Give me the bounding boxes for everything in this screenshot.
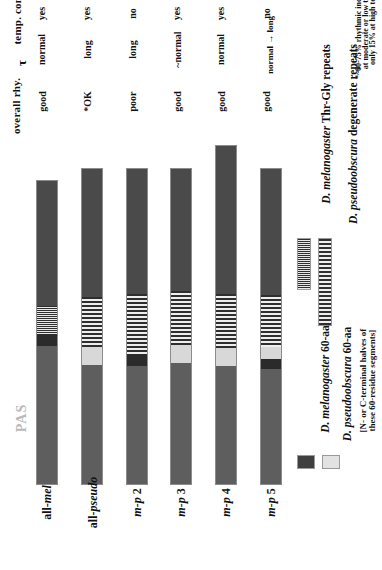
cell-tau-5-value: normal → long	[265, 16, 275, 74]
legend-swatch-pseudo-60aa	[322, 455, 340, 469]
cell-overall-rhy-4: good	[201, 96, 241, 107]
segment-mp4-60aa	[216, 348, 236, 366]
bar-label-m-p-5-suffix: 5	[264, 488, 278, 497]
segment-mel-nterm	[37, 181, 57, 306]
bar-label-m-p-4-italic: m-p	[219, 497, 233, 516]
segment-mp3-degenerate-repeats	[171, 291, 191, 345]
cell-temp-comp-0-value: yes	[37, 7, 48, 20]
bar-label-m-p-3-suffix: 3	[174, 488, 188, 497]
legend-label-degenerate-repeats: D. pseudoobscura degenerate repeats	[263, 128, 382, 140]
segment-mp2-degenerate-repeats	[127, 294, 147, 354]
segment-mp2-cterm	[127, 366, 147, 485]
bar-label-all-mel-italic: mel	[39, 485, 53, 503]
cell-tau-3-value: ~normal	[172, 31, 183, 67]
segment-mp5-nterm	[261, 169, 281, 295]
legend-footnote-text-3: only 15% at high temp.	[368, 0, 378, 65]
bar-label-m-p-2-suffix: 2	[130, 488, 144, 497]
legend-text-thr-gly: Thr-Gly repeats	[320, 44, 332, 126]
row-header-tau: τ	[7, 55, 37, 71]
segment-pseudo-nterm	[82, 169, 102, 297]
cell-temp-comp-3: yes	[162, 8, 192, 19]
legend-swatch-degenerate-repeats	[318, 238, 332, 326]
cell-tau-2-value: long	[127, 40, 138, 58]
segment-mp4-degenerate-repeats	[216, 294, 236, 348]
cell-temp-comp-1: yes	[72, 8, 102, 19]
segment-mp4-nterm	[216, 146, 236, 294]
legend-swatch-thr-gly-repeats	[297, 238, 311, 290]
cell-tau-3: ~normal	[152, 44, 202, 55]
segment-mp3-60aa	[171, 345, 191, 363]
segment-mp4-cterm	[216, 366, 236, 485]
bar-label-m-p-5: m-p 5	[245, 495, 297, 510]
legend-species-pseudoobscura-deg: D. pseudoobscura	[347, 139, 359, 224]
bar-label-m-p-4-suffix: 4	[219, 488, 233, 497]
cell-temp-comp-4-value: yes	[216, 7, 227, 20]
protein-bar-m-p-2[interactable]	[126, 168, 148, 485]
row-header-temp-comp-label: temp. comp	[10, 0, 22, 45]
protein-bar-m-p-4[interactable]	[215, 145, 237, 485]
cell-temp-comp-2: no	[117, 8, 147, 19]
legend-species-pseudoobscura-60aa: D. pseudoobscura	[341, 356, 353, 441]
cell-tau-4-value: normal	[215, 34, 226, 65]
cell-overall-rhy-1-value: *OK	[82, 91, 93, 112]
legend-species-melanogaster-60aa: D. melanogaster	[319, 355, 331, 433]
cell-tau-1: long	[62, 44, 112, 55]
legend-footnote-line-3: only 15% at high temp.	[308, 20, 382, 30]
row-header-tau-label: τ	[14, 60, 30, 66]
cell-overall-rhy-3: good	[157, 96, 197, 107]
cell-overall-rhy-1: *OK	[67, 96, 107, 107]
segment-pseudo-cterm	[82, 365, 102, 485]
segment-mel-cterm	[37, 346, 57, 485]
segment-mp3-nterm	[171, 169, 191, 291]
segment-thr-gly-repeats	[37, 306, 57, 334]
protein-bar-m-p-5[interactable]	[260, 168, 282, 485]
segment-mp5-degenerate-repeats	[261, 295, 281, 347]
cell-overall-rhy-3-value: good	[172, 91, 183, 112]
cell-overall-rhy-2: poor	[112, 96, 152, 107]
cell-temp-comp-4: yes	[206, 8, 236, 19]
bar-label-all-pseudo-italic: pseudo	[87, 477, 101, 512]
cell-overall-rhy-5: good	[246, 96, 286, 107]
protein-bar-m-p-3[interactable]	[170, 168, 192, 485]
cell-tau-1-value: long	[82, 40, 93, 58]
bar-label-m-p-5-italic: m-p	[264, 497, 278, 516]
segment-mp5-band	[261, 359, 281, 369]
bar-label-all-mel-prefix: all-	[39, 503, 53, 520]
pas-label-text: PAS	[14, 404, 30, 432]
bar-label-m-p-2-italic: m-p	[130, 497, 144, 516]
cell-tau-2: long	[107, 44, 157, 55]
legend-bottom-note-line-2: these 60-residue segments]	[308, 375, 382, 386]
segment-degenerate-repeats	[82, 297, 102, 347]
cell-temp-comp-0: yes	[27, 8, 57, 19]
segment-mp3-cterm	[171, 363, 191, 485]
cell-overall-rhy-4-value: good	[216, 91, 227, 112]
cell-temp-comp-2-value: no	[127, 8, 138, 19]
segment-mp2-band	[127, 354, 147, 366]
cell-temp-comp-1-value: yes	[82, 7, 93, 20]
cell-tau-4: normal	[196, 44, 246, 55]
segment-pseudo-60aa	[82, 347, 102, 365]
cell-tau-0-value: normal	[36, 34, 47, 65]
cell-temp-comp-3-value: yes	[172, 7, 183, 20]
legend-bottom-note-text-2: these 60-residue segments]	[367, 330, 378, 432]
protein-bar-all-pseudo[interactable]	[81, 168, 103, 485]
segment-mp5-60aa	[261, 347, 281, 359]
cell-overall-rhy-0: good	[22, 96, 62, 107]
bar-label-m-p-3-italic: m-p	[174, 497, 188, 516]
segment-mel-band	[37, 334, 57, 346]
protein-bar-all-mel[interactable]	[36, 180, 58, 485]
cell-tau-5: normal → long	[241, 40, 291, 50]
bar-label-all-pseudo-prefix: all-	[87, 512, 101, 529]
cell-overall-rhy-0-value: good	[37, 91, 48, 112]
segment-mp5-cterm	[261, 369, 281, 485]
cell-tau-0: normal	[17, 44, 67, 55]
cell-overall-rhy-5-value: good	[261, 91, 272, 112]
legend-swatch-mel-60aa	[297, 455, 315, 469]
segment-mp2-nterm	[127, 169, 147, 294]
legend-text-pseudo-60aa: 60-aa	[341, 327, 353, 357]
row-header-overall-rhy-label: overall rhy.	[10, 78, 22, 134]
cell-overall-rhy-2-value: poor	[127, 92, 138, 112]
legend-text-mel-60aa: 60-aa	[319, 325, 331, 355]
